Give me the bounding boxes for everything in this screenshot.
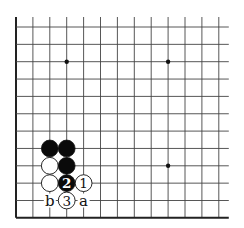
star-point — [65, 60, 69, 64]
white-stone-disc — [41, 175, 58, 192]
star-point — [166, 60, 170, 64]
white-stone — [41, 175, 58, 192]
black-stone — [41, 140, 58, 157]
black-stone-disc — [58, 157, 75, 174]
white-stone-1: 1 — [75, 175, 92, 192]
move-number: 1 — [79, 175, 88, 191]
point-marker-b: b — [45, 192, 55, 210]
white-stone — [41, 157, 58, 174]
white-stone-disc — [41, 157, 58, 174]
black-stone — [58, 140, 75, 157]
black-stone-2: 2 — [58, 175, 75, 192]
black-stone-disc — [41, 140, 58, 157]
black-stone-disc — [58, 140, 75, 157]
move-number: 2 — [62, 175, 71, 191]
star-point — [166, 164, 170, 168]
white-stone-3: 3 — [58, 192, 75, 209]
point-marker-a: a — [79, 192, 88, 210]
move-number: 3 — [62, 193, 71, 209]
go-board-diagram: ba 213 — [0, 0, 244, 228]
black-stone — [58, 157, 75, 174]
